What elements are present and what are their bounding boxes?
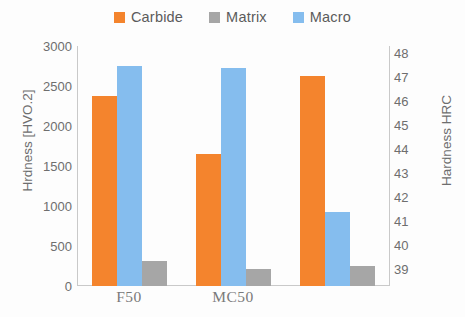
x-axis-labels: F50MC50 (77, 288, 389, 316)
y-axis-right-line (389, 46, 390, 286)
y-axis-right-tick: 43 (394, 166, 428, 181)
bar-matrix (142, 261, 167, 286)
legend-label: Carbide (131, 9, 183, 25)
bar-matrix (246, 269, 271, 286)
square-swatch-icon (209, 12, 220, 23)
square-swatch-icon (114, 12, 125, 23)
y-axis-left-tick: 0 (26, 279, 72, 294)
x-axis-label: F50 (79, 288, 179, 316)
legend-item-matrix: Matrix (209, 9, 267, 25)
y-axis-right-tick: 40 (394, 238, 428, 253)
bar-group (196, 46, 271, 286)
bar-macro (117, 66, 142, 286)
y-axis-right-tick: 48 (394, 46, 428, 61)
legend-item-carbide: Carbide (114, 9, 183, 25)
y-axis-left-title: Hrdness [HVO.2] (20, 66, 35, 216)
bar-group (300, 46, 375, 286)
y-axis-right-tick: 45 (394, 118, 428, 133)
chart-legend: Carbide Matrix Macro (0, 6, 465, 28)
y-axis-right-tick: 47 (394, 70, 428, 85)
y-axis-right-title: Hardness HRC (439, 66, 454, 216)
bar-groups (77, 46, 389, 286)
x-axis-label: MC50 (183, 288, 283, 316)
legend-label: Macro (310, 9, 351, 25)
bar-carbide (196, 154, 221, 286)
bar-macro (221, 68, 246, 286)
chart-canvas: Carbide Matrix Macro 3000250020001500100… (0, 0, 465, 317)
y-axis-left-tick: 3000 (26, 39, 72, 54)
bar-matrix (350, 266, 375, 286)
y-axis-right-tick: 42 (394, 190, 428, 205)
bar-carbide (300, 76, 325, 286)
y-axis-right-ticks: 48474645444342414039 (394, 46, 428, 286)
square-swatch-icon (293, 12, 304, 23)
y-axis-right-tick: 41 (394, 214, 428, 229)
y-axis-right-tick: 39 (394, 262, 428, 277)
y-axis-right-tick: 44 (394, 142, 428, 157)
legend-item-macro: Macro (293, 9, 351, 25)
bar-macro (325, 212, 350, 286)
bar-carbide (92, 96, 117, 286)
y-axis-left-tick: 500 (26, 239, 72, 254)
bar-group (92, 46, 167, 286)
x-axis-label (287, 288, 387, 316)
y-axis-right-tick: 46 (394, 94, 428, 109)
legend-label: Matrix (226, 9, 267, 25)
